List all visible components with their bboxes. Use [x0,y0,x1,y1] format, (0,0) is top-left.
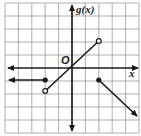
y-axis-label: g(x) [75,3,94,16]
axes [8,5,138,131]
open-dot-bottom [43,89,48,94]
function-graph [9,41,137,116]
origin-label: O [61,54,70,66]
right-ray [99,80,137,116]
x-axis-label: x [128,67,135,79]
closed-dot-right [96,77,101,82]
closed-dot-left [43,77,48,82]
open-dot-top [96,39,101,44]
graph: g(x) x O [0,0,141,136]
